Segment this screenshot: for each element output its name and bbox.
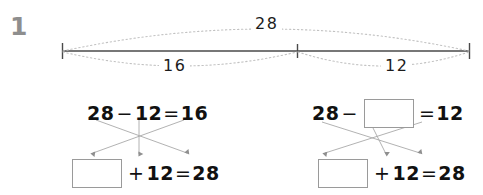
left-top-minuend: 28 bbox=[87, 104, 114, 123]
equation-right-bottom: + 12 = 28 bbox=[314, 160, 466, 186]
left-bottom-sum: 28 bbox=[192, 164, 219, 183]
equation-group-right: 28 − = 12 + 12 = 28 bbox=[300, 98, 483, 195]
right-top-equals-sign: = bbox=[418, 104, 436, 123]
left-top-equals-sign: = bbox=[162, 104, 180, 123]
right-bottom-sum: 28 bbox=[438, 164, 465, 183]
number-line-label-left-part: 16 bbox=[159, 58, 190, 74]
right-top-minuend: 28 bbox=[312, 104, 339, 123]
left-bottom-plus-sign: + bbox=[126, 164, 146, 183]
left-bottom-addend: 12 bbox=[146, 164, 173, 183]
left-top-subtrahend: 12 bbox=[135, 104, 162, 123]
left-top-difference: 16 bbox=[181, 104, 208, 123]
left-top-minus-sign: − bbox=[114, 104, 134, 123]
right-bottom-plus-sign: + bbox=[372, 164, 392, 183]
left-bottom-answer-box[interactable] bbox=[72, 159, 122, 188]
equation-right-top: 28 − = 12 bbox=[312, 100, 464, 126]
number-line-label-right-part: 12 bbox=[381, 58, 412, 74]
arrow-box-to-addend bbox=[372, 126, 386, 154]
right-top-answer-box[interactable] bbox=[364, 99, 414, 128]
right-top-minus-sign: − bbox=[339, 104, 359, 123]
equation-group-left: 28 − 12 = 16 + 12 = 28 bbox=[62, 98, 262, 195]
right-top-difference: 12 bbox=[436, 104, 463, 123]
right-bottom-equals-sign: = bbox=[420, 164, 438, 183]
equation-left-bottom: + 12 = 28 bbox=[68, 160, 220, 186]
left-bottom-equals-sign: = bbox=[174, 164, 192, 183]
number-line-diagram bbox=[0, 0, 483, 95]
right-bottom-answer-box[interactable] bbox=[318, 159, 368, 188]
right-bottom-addend: 12 bbox=[392, 164, 419, 183]
equation-left-top: 28 − 12 = 16 bbox=[87, 100, 208, 126]
number-line-label-total: 28 bbox=[251, 16, 282, 32]
worksheet-problem-1: 1 28 16 12 bbox=[0, 0, 483, 195]
